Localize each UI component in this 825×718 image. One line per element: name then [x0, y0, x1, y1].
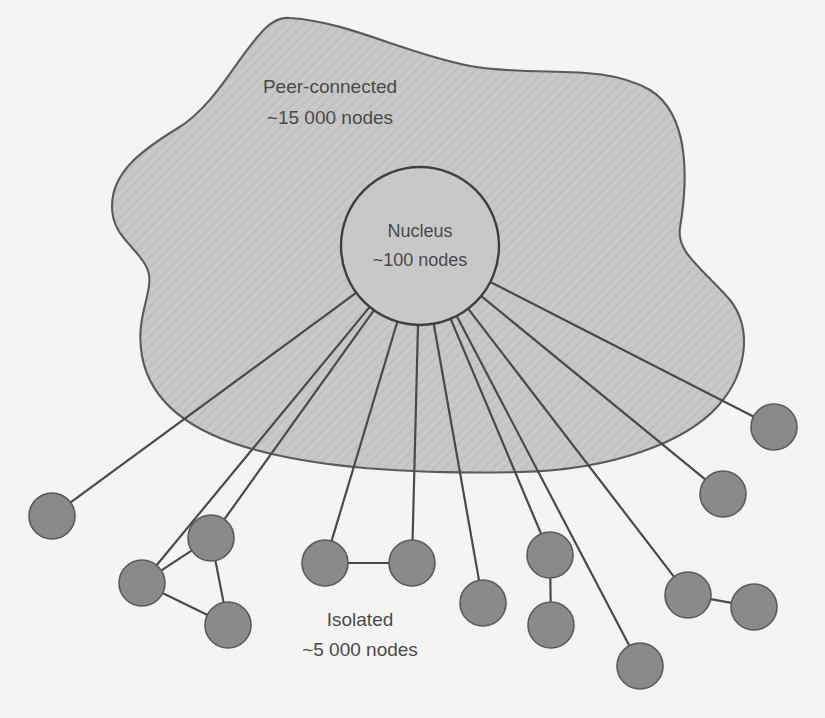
isolated-label: Isolated [327, 609, 394, 630]
peer-connected-count-label: ~15 000 nodes [267, 107, 393, 128]
isolated-node-n10 [617, 643, 663, 689]
isolated-node-n4 [205, 602, 251, 648]
diagram-canvas: Peer-connected ~15 000 nodes Nucleus ~10… [0, 0, 825, 718]
isolated-node-n14 [751, 404, 797, 450]
isolated-node-n9 [528, 602, 574, 648]
network-diagram: Peer-connected ~15 000 nodes Nucleus ~10… [0, 0, 825, 718]
nucleus-label: Nucleus [387, 221, 452, 241]
nucleus-circle [341, 167, 499, 325]
isolated-node-n7 [460, 580, 506, 626]
isolated-count-label: ~5 000 nodes [302, 639, 418, 660]
isolated-node-n11 [665, 572, 711, 618]
isolated-node-n13 [700, 471, 746, 517]
isolated-node-n1 [29, 493, 75, 539]
isolated-node-n5 [302, 540, 348, 586]
peer-connected-label-line1: Peer-connected [263, 76, 397, 97]
isolated-node-n12 [731, 584, 777, 630]
isolated-node-n8 [527, 532, 573, 578]
nucleus-count-label: ~100 nodes [373, 250, 468, 270]
isolated-node-n6 [389, 540, 435, 586]
isolated-node-n3 [188, 515, 234, 561]
isolated-node-n2 [119, 560, 165, 606]
